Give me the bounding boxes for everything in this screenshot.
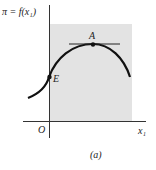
figure-canvas: A E π = f(x₁) O x₁ (a) — [0, 0, 156, 170]
origin-label: O — [38, 124, 45, 135]
point-E-label: E — [52, 73, 59, 84]
point-A-label: A — [88, 30, 96, 41]
figure-caption: (a) — [90, 149, 102, 161]
point-E — [47, 75, 51, 79]
point-A — [91, 42, 95, 46]
x-axis-label: x₁ — [137, 125, 146, 136]
y-axis-label: π = f(x₁) — [2, 6, 37, 18]
